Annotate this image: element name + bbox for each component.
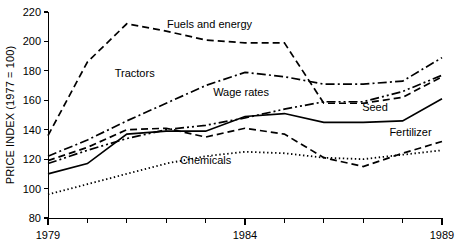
y-axis-tick-label: 120 — [23, 153, 41, 165]
y-axis-tick-label: 220 — [23, 6, 41, 18]
x-axis-tick-label: 1979 — [36, 229, 60, 241]
y-axis-tick-label: 100 — [23, 183, 41, 195]
price-index-line-chart: Fuels and energyTractorsWage ratesSeedFe… — [0, 0, 459, 249]
x-axis-tick-label: 1989 — [430, 229, 454, 241]
y-axis-tick-label: 80 — [29, 212, 41, 224]
x-axis-tick-label: 1984 — [233, 229, 257, 241]
series-label-fertilizer: Fertilizer — [389, 126, 432, 138]
y-axis-tick-label: 180 — [23, 65, 41, 77]
series-line-chemicals — [48, 150, 442, 194]
series-label-chemicals: Chemicals — [180, 154, 232, 166]
series-annotations: Fuels and energyTractorsWage ratesSeedFe… — [115, 18, 432, 165]
series-label-tractors: Tractors — [115, 67, 155, 79]
y-axis-tick-label: 140 — [23, 124, 41, 136]
chart-svg: Fuels and energyTractorsWage ratesSeedFe… — [0, 0, 459, 249]
y-axis-tick-label: 200 — [23, 35, 41, 47]
y-axis-title: PRICE INDEX (1977 = 100) — [4, 46, 16, 184]
series-label-seed: Seed — [362, 101, 388, 113]
series-label-wage-rates: Wage rates — [213, 86, 269, 98]
series-line-fertilizer — [48, 128, 442, 166]
series-line-fuels-and-energy — [48, 24, 442, 136]
y-axis-tick-label: 160 — [23, 94, 41, 106]
series-label-fuels-and-energy: Fuels and energy — [167, 18, 252, 30]
